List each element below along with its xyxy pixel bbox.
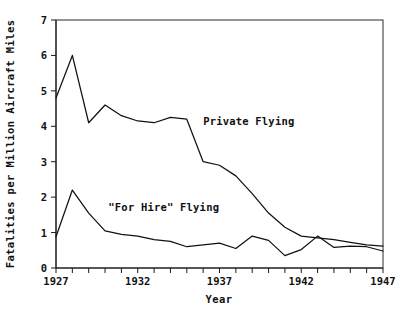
- y-tick-label: 3: [41, 156, 47, 168]
- y-tick-label: 5: [41, 85, 47, 97]
- series-line-for-hire-flying: [56, 190, 383, 256]
- y-axis-ticks: [51, 20, 56, 268]
- y-tick-label: 4: [41, 120, 47, 132]
- x-tick-label: 1927: [43, 275, 68, 287]
- x-axis-title: Year: [206, 293, 233, 305]
- x-axis-ticks: [56, 268, 383, 273]
- x-tick-label: 1942: [289, 275, 314, 287]
- series-line-private-flying: [56, 55, 383, 246]
- x-tick-label: 1947: [370, 275, 395, 287]
- annotation-for-hire-flying: "For Hire" Flying: [108, 201, 219, 213]
- y-axis-title: Fatalities per Million Aircraft Miles: [4, 20, 16, 269]
- y-tick-label: 7: [41, 14, 47, 26]
- annotation-private-flying: Private Flying: [203, 115, 294, 127]
- x-tick-label: 1937: [207, 275, 232, 287]
- x-axis-tick-labels: 19271932193719421947: [43, 275, 395, 287]
- line-chart: 01234567 19271932193719421947 Private Fl…: [0, 0, 399, 315]
- y-tick-label: 2: [41, 191, 47, 203]
- y-tick-label: 1: [41, 227, 47, 239]
- y-tick-label: 6: [41, 49, 47, 61]
- y-axis-tick-labels: 01234567: [41, 14, 47, 274]
- y-tick-label: 0: [41, 262, 47, 274]
- x-tick-label: 1932: [125, 275, 150, 287]
- chart-figure: 01234567 19271932193719421947 Private Fl…: [0, 0, 399, 315]
